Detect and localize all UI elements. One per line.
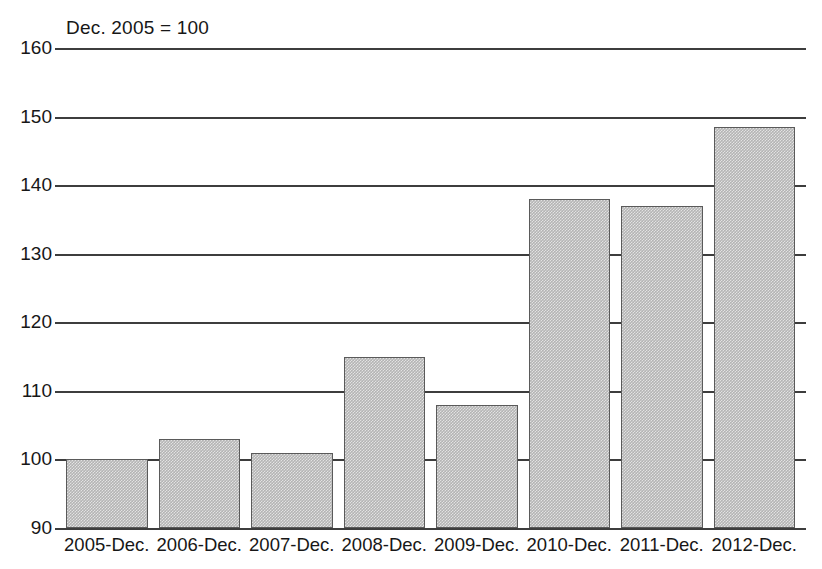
bar-chart: Dec. 2005 = 100 16015014013012011010090 … xyxy=(0,0,822,569)
x-tick-label: 2007-Dec. xyxy=(248,534,336,556)
x-tick-label: 2006-Dec. xyxy=(156,534,244,556)
x-axis: 2005-Dec.2006-Dec.2007-Dec.2008-Dec.2009… xyxy=(66,534,808,564)
y-tick-label-130: 130 xyxy=(6,244,52,263)
y-tick-label-160: 160 xyxy=(6,38,52,57)
bar xyxy=(66,459,148,528)
gridline-90 xyxy=(66,528,806,530)
y-tick-dash-140 xyxy=(55,185,66,187)
y-tick-dash-120 xyxy=(55,322,66,324)
x-tick-label: 2008-Dec. xyxy=(341,534,429,556)
y-tick-dash-150 xyxy=(55,117,66,119)
y-tick-dash-130 xyxy=(55,254,66,256)
chart-title: Dec. 2005 = 100 xyxy=(66,17,209,39)
y-tick-dash-90 xyxy=(55,528,66,530)
y-tick-label-120: 120 xyxy=(6,312,52,331)
x-tick-label: 2012-Dec. xyxy=(711,534,799,556)
y-tick-label-100: 100 xyxy=(6,449,52,468)
y-tick-dash-110 xyxy=(55,391,66,393)
plot-area xyxy=(66,48,806,528)
bar xyxy=(714,127,796,528)
y-tick-label-150: 150 xyxy=(6,107,52,126)
bar xyxy=(436,405,518,528)
x-tick-label: 2009-Dec. xyxy=(433,534,521,556)
y-tick-label-140: 140 xyxy=(6,175,52,194)
bar xyxy=(251,453,333,528)
y-tick-label-90: 90 xyxy=(6,518,52,537)
bar xyxy=(159,439,241,528)
bar xyxy=(621,206,703,528)
x-tick-label: 2011-Dec. xyxy=(618,534,706,556)
y-axis: 16015014013012011010090 xyxy=(0,0,52,569)
y-tick-label-110: 110 xyxy=(6,381,52,400)
y-tick-dash-160 xyxy=(55,48,66,50)
x-tick-label: 2010-Dec. xyxy=(526,534,614,556)
y-tick-dash-100 xyxy=(55,459,66,461)
bar xyxy=(344,357,426,528)
bar xyxy=(529,199,611,528)
bars-series xyxy=(66,48,806,528)
x-tick-label: 2005-Dec. xyxy=(63,534,151,556)
